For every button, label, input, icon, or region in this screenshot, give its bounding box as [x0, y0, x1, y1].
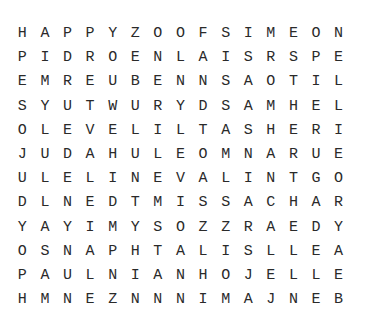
letter-cell[interactable]: L — [124, 119, 147, 143]
letter-cell[interactable]: T — [282, 167, 305, 191]
letter-cell[interactable]: O — [305, 22, 328, 46]
letter-cell[interactable]: I — [305, 70, 328, 94]
letter-cell[interactable]: P — [79, 22, 102, 46]
letter-cell[interactable]: S — [34, 240, 57, 264]
letter-cell[interactable]: A — [34, 264, 57, 288]
letter-cell[interactable]: V — [79, 119, 102, 143]
letter-cell[interactable]: U — [11, 167, 34, 191]
letter-cell[interactable]: O — [169, 22, 192, 46]
letter-cell[interactable]: T — [147, 240, 170, 264]
letter-cell[interactable]: T — [282, 70, 305, 94]
letter-cell[interactable]: S — [237, 240, 260, 264]
letter-cell[interactable]: J — [260, 288, 283, 312]
letter-cell[interactable]: Y — [11, 216, 34, 240]
letter-cell[interactable]: R — [147, 95, 170, 119]
letter-cell[interactable]: S — [214, 22, 237, 46]
letter-cell[interactable]: A — [327, 240, 350, 264]
letter-cell[interactable]: M — [34, 70, 57, 94]
letter-cell[interactable]: S — [282, 46, 305, 70]
letter-cell[interactable]: L — [327, 95, 350, 119]
letter-cell[interactable]: L — [282, 240, 305, 264]
letter-cell[interactable]: N — [56, 288, 79, 312]
letter-cell[interactable]: L — [327, 70, 350, 94]
letter-cell[interactable]: D — [192, 95, 215, 119]
letter-cell[interactable]: E — [305, 95, 328, 119]
letter-cell[interactable]: M — [260, 22, 283, 46]
letter-cell[interactable]: E — [305, 288, 328, 312]
letter-cell[interactable]: O — [11, 240, 34, 264]
letter-cell[interactable]: O — [169, 216, 192, 240]
letter-cell[interactable]: E — [124, 46, 147, 70]
letter-cell[interactable]: Z — [124, 22, 147, 46]
letter-cell[interactable]: R — [56, 70, 79, 94]
letter-cell[interactable]: P — [101, 240, 124, 264]
letter-cell[interactable]: S — [214, 70, 237, 94]
letter-cell[interactable]: H — [11, 22, 34, 46]
letter-cell[interactable]: Z — [192, 216, 215, 240]
letter-cell[interactable]: Y — [56, 216, 79, 240]
letter-cell[interactable]: I — [34, 46, 57, 70]
letter-cell[interactable]: H — [260, 119, 283, 143]
letter-cell[interactable]: S — [237, 119, 260, 143]
letter-cell[interactable]: N — [169, 70, 192, 94]
letter-cell[interactable]: N — [147, 46, 170, 70]
letter-cell[interactable]: T — [192, 119, 215, 143]
letter-cell[interactable]: E — [282, 22, 305, 46]
letter-cell[interactable]: L — [34, 119, 57, 143]
letter-cell[interactable]: L — [305, 264, 328, 288]
letter-cell[interactable]: O — [327, 167, 350, 191]
letter-cell[interactable]: I — [214, 240, 237, 264]
letter-cell[interactable]: I — [327, 119, 350, 143]
letter-cell[interactable]: R — [327, 191, 350, 215]
letter-cell[interactable]: A — [305, 191, 328, 215]
letter-cell[interactable]: U — [34, 143, 57, 167]
letter-cell[interactable]: O — [101, 46, 124, 70]
letter-cell[interactable]: D — [101, 191, 124, 215]
letter-cell[interactable]: A — [237, 95, 260, 119]
letter-cell[interactable]: D — [56, 46, 79, 70]
letter-cell[interactable]: E — [56, 119, 79, 143]
letter-cell[interactable]: S — [237, 46, 260, 70]
letter-cell[interactable]: H — [192, 264, 215, 288]
letter-cell[interactable]: U — [56, 264, 79, 288]
letter-cell[interactable]: L — [282, 264, 305, 288]
letter-cell[interactable]: A — [237, 288, 260, 312]
letter-cell[interactable]: E — [282, 119, 305, 143]
letter-cell[interactable]: E — [56, 167, 79, 191]
letter-cell[interactable]: E — [305, 240, 328, 264]
letter-cell[interactable]: L — [34, 191, 57, 215]
letter-cell[interactable]: U — [124, 143, 147, 167]
letter-cell[interactable]: A — [79, 143, 102, 167]
letter-cell[interactable]: L — [79, 167, 102, 191]
letter-cell[interactable]: E — [147, 167, 170, 191]
letter-cell[interactable]: P — [56, 22, 79, 46]
letter-cell[interactable]: P — [305, 46, 328, 70]
letter-cell[interactable]: O — [11, 119, 34, 143]
letter-cell[interactable]: N — [56, 191, 79, 215]
letter-cell[interactable]: H — [101, 143, 124, 167]
letter-cell[interactable]: V — [169, 167, 192, 191]
letter-cell[interactable]: T — [124, 191, 147, 215]
letter-cell[interactable]: L — [147, 143, 170, 167]
letter-cell[interactable]: A — [34, 22, 57, 46]
letter-cell[interactable]: D — [56, 143, 79, 167]
letter-cell[interactable]: J — [11, 143, 34, 167]
letter-cell[interactable]: I — [147, 119, 170, 143]
letter-cell[interactable]: U — [305, 143, 328, 167]
letter-cell[interactable]: A — [260, 216, 283, 240]
letter-cell[interactable]: E — [327, 143, 350, 167]
letter-cell[interactable]: E — [79, 288, 102, 312]
letter-cell[interactable]: N — [169, 288, 192, 312]
letter-cell[interactable]: A — [34, 216, 57, 240]
letter-cell[interactable]: I — [169, 191, 192, 215]
letter-cell[interactable]: U — [101, 70, 124, 94]
letter-cell[interactable]: S — [214, 191, 237, 215]
letter-cell[interactable]: N — [169, 264, 192, 288]
letter-cell[interactable]: S — [214, 95, 237, 119]
letter-cell[interactable]: N — [192, 70, 215, 94]
letter-cell[interactable]: M — [214, 143, 237, 167]
letter-cell[interactable]: E — [101, 119, 124, 143]
letter-cell[interactable]: E — [79, 70, 102, 94]
letter-cell[interactable]: S — [147, 216, 170, 240]
letter-cell[interactable]: E — [260, 264, 283, 288]
